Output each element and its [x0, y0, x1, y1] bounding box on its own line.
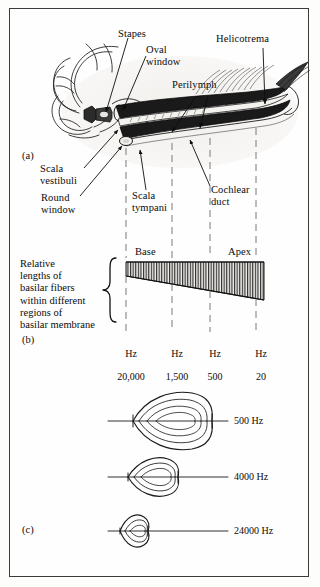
freq-tick-2-value: 500 [208, 371, 223, 382]
panel-b-artwork [103, 258, 264, 332]
freq-tick-1-value: 1,500 [166, 371, 189, 382]
wave-label-500hz: 500 Hz [234, 415, 263, 426]
label-cochlear-duct: Cochlear duct [211, 184, 250, 207]
freq-tick-1-unit: Hz [171, 348, 183, 359]
traveling-wave-500hz [108, 392, 228, 449]
freq-tick-0-value: 20,000 [117, 371, 145, 382]
wave-label-24000hz: 24000 Hz [234, 525, 273, 536]
label-round-window: Round window [41, 192, 75, 215]
panel-a-label: (a) [22, 150, 34, 161]
label-scala-vestibuli: Scala vestibuli [40, 163, 77, 186]
panel-c-label: (c) [22, 524, 34, 535]
basilar-description-text: Relative lengths of basilar fibers withi… [20, 258, 95, 331]
basilar-wedge [126, 262, 264, 300]
label-oval-window: Oval window [146, 44, 180, 67]
freq-tick-0: Hz 20,000 [101, 336, 151, 394]
label-stapes: Stapes [118, 28, 146, 40]
traveling-wave-24000hz [108, 515, 228, 547]
panel-b-label: (b) [22, 334, 34, 345]
label-apex: Apex [228, 246, 251, 258]
label-helicotrema: Helicotrema [216, 33, 269, 45]
basilar-brace [103, 258, 116, 322]
freq-tick-2-unit: Hz [209, 348, 221, 359]
panel-a-artwork [52, 38, 310, 196]
round-window-drawing [120, 137, 133, 146]
wave-label-4000hz: 4000 Hz [234, 471, 268, 482]
label-scala-tympani: Scala tympani [132, 190, 167, 213]
figure-root: (a) Stapes Oval window Perilymph Helicot… [0, 0, 320, 587]
traveling-wave-4000hz [108, 458, 228, 497]
stapes-drawing [84, 106, 112, 123]
freq-tick-3: Hz 20 [234, 336, 278, 394]
freq-tick-3-unit: Hz [255, 348, 267, 359]
freq-tick-2: Hz 500 [188, 336, 232, 394]
panel-c-artwork [108, 392, 228, 547]
label-base: Base [135, 246, 156, 258]
freq-tick-0-unit: Hz [125, 348, 137, 359]
freq-tick-3-value: 20 [256, 371, 266, 382]
label-perilymph: Perilymph [172, 79, 217, 91]
